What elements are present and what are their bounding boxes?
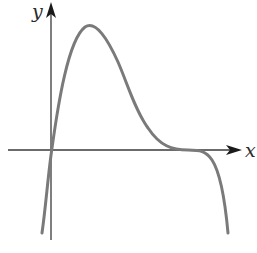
function-curve [42,26,228,233]
function-graph: y x [0,0,257,253]
x-axis-label: x [245,139,256,161]
y-axis-label: y [31,0,43,22]
